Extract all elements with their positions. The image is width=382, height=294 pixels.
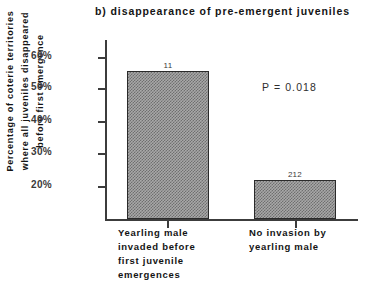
y-tick-label-50: 50%	[8, 81, 52, 92]
x-category-label-1: Yearling male invaded before first juven…	[118, 226, 195, 282]
y-tick-label-40: 40%	[8, 114, 52, 125]
x-category-label-2: No invasion by yearling male	[249, 226, 326, 254]
y-axis-line	[105, 40, 107, 221]
y-tick-20	[98, 186, 105, 188]
y-tick-50	[98, 88, 105, 90]
bar-no-invasion[interactable]	[254, 180, 336, 219]
y-tick-30	[98, 153, 105, 155]
bar-chart-figure: b) disappearance of pre-emergent juvenil…	[0, 0, 382, 294]
y-tick-40	[98, 121, 105, 123]
x-category-label-1-line-3: first juvenile	[118, 254, 195, 268]
x-axis-line	[105, 219, 358, 221]
x-category-label-2-line-2: yearling male	[249, 240, 326, 254]
y-tick-label-60: 60%	[8, 50, 52, 61]
chart-title: b) disappearance of pre-emergent juvenil…	[95, 5, 380, 17]
bar-value-1: 11	[127, 61, 209, 70]
y-tick-60	[98, 57, 105, 59]
bar-yearling-male-invaded[interactable]	[127, 71, 209, 219]
y-tick-label-30: 30%	[8, 146, 52, 157]
x-category-label-1-line-2: invaded before	[118, 240, 195, 254]
p-value-annotation: P = 0.018	[262, 81, 317, 93]
plot-area: 60% 50% 40% 30% 20% 11 212 Yearling male…	[105, 40, 358, 221]
x-category-label-1-line-4: emergences	[118, 268, 195, 282]
y-tick-label-20: 20%	[8, 179, 52, 190]
x-category-label-1-line-1: Yearling male	[118, 226, 195, 240]
x-category-label-2-line-1: No invasion by	[249, 226, 326, 240]
bar-value-2: 212	[254, 170, 336, 179]
